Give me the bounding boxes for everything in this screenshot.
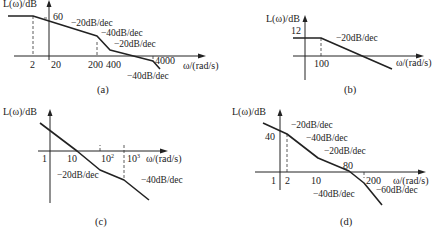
x-tick: 100 (314, 58, 329, 69)
y-axis-arrow-icon (47, 0, 52, 7)
slope-label: −40dB/dec (306, 133, 348, 143)
panel-a: L(ω)/dB 60 2 20 200 400 4000 ω/(rad/s) −… (3, 0, 218, 96)
panel-caption: (a) (97, 84, 109, 96)
x-axis-label: ω/(rad/s) (183, 60, 218, 72)
x-axis-arrow-icon (198, 54, 206, 59)
panel-d: L(ω)/dB 40 1 2 10 80 200 ω/(rad/s) −20dB… (232, 106, 428, 228)
x-tick: 1 (42, 153, 47, 164)
panel-caption: (c) (95, 216, 107, 228)
x-tick: 80 (343, 160, 353, 171)
x-tick: 2 (30, 59, 35, 70)
panel-c: L(ω)/dB 1 10 102 103 ω/(rad/s) −20dB/dec… (3, 106, 183, 228)
y-axis-arrow-icon (303, 15, 308, 22)
slope-label: −20dB/dec (57, 170, 99, 180)
slope-label: −20dB/dec (71, 18, 113, 28)
bode-diagram-figure: L(ω)/dB 60 2 20 200 400 4000 ω/(rad/s) −… (0, 0, 444, 234)
x-axis-label: ω/(rad/s) (396, 57, 431, 69)
slope-label: −40dB/dec (313, 189, 355, 199)
slope-label: −20dB/dec (114, 39, 156, 49)
slope-label: −20dB/dec (291, 120, 333, 130)
panel-caption: (d) (340, 216, 353, 228)
x-tick: 10 (67, 153, 77, 164)
y-axis-label: L(ω)/dB (266, 13, 300, 25)
y-axis-label: L(ω)/dB (3, 0, 37, 10)
x-tick: 102 (101, 153, 114, 164)
panel-b: L(ω)/dB 12 100 ω/(rad/s) −20dB/dec (b) (266, 13, 431, 96)
x-tick: 10 (311, 175, 321, 186)
y-axis-arrow-icon (48, 109, 53, 116)
x-tick: 20 (51, 59, 61, 70)
y-axis-arrow-icon (278, 109, 283, 116)
y-tick: 60 (53, 11, 63, 22)
x-tick: 103 (127, 153, 140, 164)
slope-label: −20dB/dec (336, 33, 378, 43)
y-axis-label: L(ω)/dB (232, 106, 266, 118)
panel-caption: (b) (344, 84, 357, 96)
x-tick: 200 (88, 59, 103, 70)
x-tick: 400 (106, 59, 121, 70)
x-axis-arrow-icon (418, 170, 426, 175)
slope-label: −40dB/dec (141, 175, 183, 185)
y-axis-label: L(ω)/dB (3, 106, 37, 118)
slope-label: −20dB/dec (324, 146, 366, 156)
x-tick: 4000 (155, 55, 175, 66)
y-tick: 40 (265, 131, 275, 142)
slope-label: −40dB/dec (127, 71, 169, 81)
slope-label: −60dB/dec (376, 185, 418, 195)
x-tick: 2 (285, 175, 290, 186)
x-tick: 1 (271, 175, 276, 186)
y-tick: 12 (291, 25, 301, 36)
x-axis-label: ω/(rad/s) (146, 153, 181, 165)
slope-label: −40dB/dec (101, 28, 143, 38)
